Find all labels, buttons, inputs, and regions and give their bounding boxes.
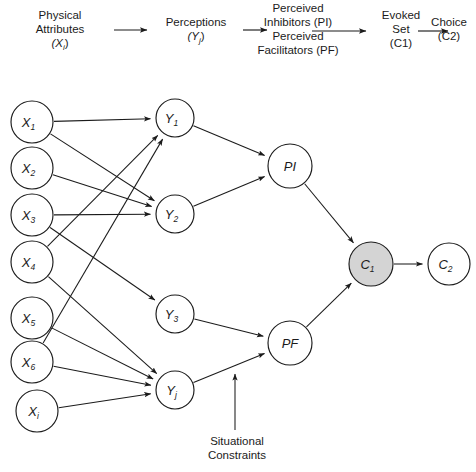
edge-x4-y1 [48,135,158,246]
node-x2[interactable]: X2 [11,147,53,189]
node-subscript-y3: 3 [173,314,178,324]
node-x4[interactable]: X4 [11,241,53,283]
diagram-canvas: X1X2X3X4X5X6XiY1Y2Y3YjPIPFC1C2 [0,0,476,472]
node-group: X1X2X3X4X5X6XiY1Y2Y3YjPIPFC1C2 [11,99,470,432]
node-x6[interactable]: X6 [11,341,53,383]
process-diagram: Physical Attributes (Xi) Perceptions (Yj… [0,0,476,472]
edge-y2-pi [193,177,264,207]
node-subscript-c1: 1 [370,264,375,274]
node-subscript-x1: 1 [30,122,35,132]
node-pi[interactable]: PI [268,144,312,188]
node-subscript-y2: 2 [172,214,178,224]
node-y1[interactable]: Y1 [156,99,194,137]
node-xi[interactable]: Xi [16,390,58,432]
node-label-pf: PF [282,336,300,351]
node-pf[interactable]: PF [268,321,312,365]
node-x1[interactable]: X1 [11,101,53,143]
node-subscript-x6: 6 [30,362,35,372]
node-c2[interactable]: C2 [428,243,470,285]
node-x5[interactable]: X5 [11,297,53,339]
edge-y1-pi [193,126,264,156]
edge-xi-yj [59,394,151,408]
node-label-pi: PI [284,159,297,174]
edge-pf-c1 [306,283,351,327]
header-arrow-group [114,30,448,31]
edge-x6-y1 [43,139,162,343]
edge-x4-yj [48,277,156,374]
node-subscript-c2: 2 [447,264,453,274]
node-subscript-x2: 2 [29,168,35,178]
node-subscript-x4: 4 [30,262,35,272]
node-y3[interactable]: Y3 [156,295,194,333]
node-x3[interactable]: X3 [11,194,53,236]
edge-x3-y3 [50,228,155,301]
edge-x5-yj [52,328,153,379]
edge-x6-yj [54,366,151,385]
node-yj[interactable]: Yj [156,371,194,409]
node-subscript-y1: 1 [173,118,178,128]
edge-x1-y1 [54,119,151,122]
edge-y3-pf [194,319,263,336]
edge-yj-pf [194,353,265,382]
node-c1[interactable]: C1 [349,242,393,286]
node-y2[interactable]: Y2 [156,195,194,233]
edge-pi-c1 [305,184,354,243]
node-subscript-x3: 3 [30,215,35,225]
node-subscript-x5: 5 [30,318,35,328]
edge-x3-y2 [54,214,151,215]
